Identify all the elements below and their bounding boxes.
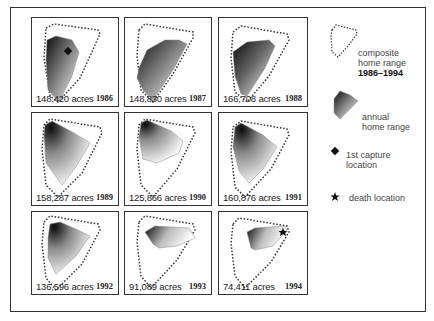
acreage-label: 125,866 acres bbox=[129, 192, 187, 203]
annual-range-legend-label: annual home range bbox=[362, 112, 410, 132]
annual-range-shape bbox=[233, 40, 275, 96]
capture-location-legend-label: 1st capture location bbox=[346, 150, 391, 170]
capture-location-legend-icon bbox=[330, 146, 340, 156]
annual-range-shape bbox=[145, 226, 195, 248]
year-label: 1986 bbox=[96, 93, 113, 103]
acreage-label: 136,596 acres bbox=[36, 281, 94, 292]
death-location-legend-icon bbox=[330, 192, 340, 202]
acreage-label: 74,411 acres bbox=[223, 281, 275, 292]
panel-1990: 125,866 acres 1990 bbox=[124, 112, 212, 206]
acreage-label: 91,089 acres bbox=[129, 281, 182, 292]
panel-1986: 148,420 acres 1986 bbox=[31, 17, 119, 107]
acreage-label: 148,830 acres bbox=[129, 93, 187, 104]
panel-1987: 148,830 acres 1987 bbox=[124, 17, 212, 107]
year-label: 1994 bbox=[285, 281, 302, 291]
legend-line: location bbox=[346, 160, 391, 170]
year-label: 1987 bbox=[189, 93, 206, 103]
year-label: 1991 bbox=[285, 192, 302, 202]
composite-range-legend-icon bbox=[328, 22, 362, 60]
annual-range-shape bbox=[139, 120, 183, 163]
panel-1989: 158,287 acres 1989 bbox=[31, 112, 119, 206]
year-label: 1988 bbox=[285, 93, 302, 103]
year-label: 1992 bbox=[96, 281, 113, 291]
panel-1988: 166,708 acres 1988 bbox=[218, 17, 308, 107]
legend-line: 1st capture bbox=[346, 150, 391, 160]
year-label: 1990 bbox=[189, 192, 206, 202]
acreage-label: 158,287 acres bbox=[36, 192, 94, 203]
panel-1992: 136,596 acres 1992 bbox=[31, 211, 119, 295]
annual-range-shape bbox=[137, 40, 187, 100]
legend-years: 1986–1994 bbox=[358, 68, 406, 78]
panel-1991: 160,876 acres 1991 bbox=[218, 112, 308, 206]
legend-line: composite bbox=[358, 48, 406, 58]
annual-range-shape bbox=[48, 222, 90, 274]
panel-1993: 91,089 acres 1993 bbox=[124, 211, 212, 295]
annual-range-shape bbox=[44, 121, 90, 185]
composite-range-legend-label: composite home range 1986–1994 bbox=[358, 48, 406, 78]
year-label: 1993 bbox=[189, 281, 206, 291]
acreage-label: 160,876 acres bbox=[223, 192, 281, 203]
acreage-label: 166,708 acres bbox=[223, 93, 281, 104]
year-label: 1989 bbox=[96, 192, 113, 202]
panel-1994: 74,411 acres 1994 bbox=[218, 211, 308, 295]
legend-line: home range bbox=[358, 58, 406, 68]
annual-range-shape bbox=[233, 123, 277, 183]
death-location-legend-label: death location bbox=[349, 193, 405, 203]
annual-range-legend-icon bbox=[330, 89, 360, 125]
legend-line: home range bbox=[362, 122, 410, 132]
acreage-label: 148,420 acres bbox=[36, 93, 94, 104]
legend-line: annual bbox=[362, 112, 410, 122]
